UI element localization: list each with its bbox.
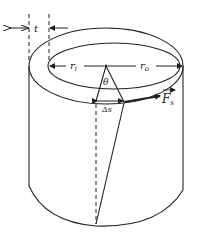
- arc-length-label: Δs: [101, 105, 112, 114]
- angle-label: θ: [103, 77, 109, 87]
- force-label: Fs: [161, 92, 174, 107]
- slanted-line: [96, 103, 124, 224]
- cylinder-bottom-curve: [29, 186, 183, 226]
- force-arrow: [124, 96, 160, 102]
- wedge-line-right: [106, 66, 124, 102]
- thickness-label: t: [34, 23, 39, 34]
- hollow-cylinder-diagram: t ri ro θ Δs Fs: [0, 0, 198, 233]
